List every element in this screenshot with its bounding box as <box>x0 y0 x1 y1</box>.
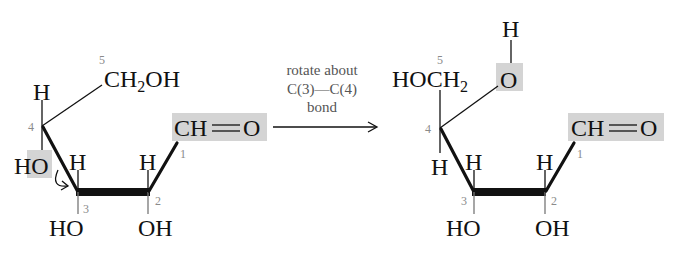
o-atom-label: O <box>500 67 517 93</box>
chemical-diagram: H CH2OH HO H HO H OH CH O 5 4 3 2 1 rota… <box>0 0 674 257</box>
carbon-number-3: 3 <box>461 194 467 208</box>
carbon-number-4: 4 <box>425 122 431 136</box>
c3-ho-label: HO <box>49 215 84 241</box>
carbon-number-4: 4 <box>28 120 34 134</box>
c2-oh-label: OH <box>138 215 173 241</box>
carbon-number-5: 5 <box>437 53 443 67</box>
caption-line-2: C(3)—C(4) <box>287 81 357 98</box>
caption-line-3: bond <box>307 99 338 115</box>
c3-ho-label: HO <box>446 215 481 241</box>
rotation-arrow: rotate about C(3)—C(4) bond <box>273 62 377 132</box>
c1-o-label: O <box>243 115 260 141</box>
c5-group-label: HOCH2 <box>392 66 468 95</box>
c3-h-label: H <box>69 149 86 175</box>
c3-h-label: H <box>465 149 482 175</box>
c4-ho-label: HO <box>14 153 49 179</box>
left-structure: H CH2OH HO H HO H OH CH O 5 4 3 2 1 <box>14 53 267 241</box>
c4-h-label: H <box>431 154 448 180</box>
bond-c4-o <box>440 86 498 128</box>
c4-h-label: H <box>33 79 50 105</box>
c2-h-label: H <box>536 149 553 175</box>
c2-h-label: H <box>139 149 156 175</box>
right-structure: H O HOCH2 H H HO H OH CH O 5 4 3 2 1 <box>392 16 664 241</box>
carbon-number-3: 3 <box>83 202 89 216</box>
o-h-label: H <box>502 16 519 42</box>
c5-group-label: CH2OH <box>104 66 180 95</box>
carbon-number-5: 5 <box>99 53 105 67</box>
caption-line-1: rotate about <box>286 62 358 78</box>
c1-o-label: O <box>640 115 657 141</box>
carbon-number-2: 2 <box>155 194 161 208</box>
c1-ch-label: CH <box>174 115 207 141</box>
carbon-number-1: 1 <box>577 147 583 161</box>
carbon-number-2: 2 <box>551 194 557 208</box>
c1-ch-label: CH <box>571 115 604 141</box>
c2-oh-label: OH <box>535 215 570 241</box>
carbon-number-1: 1 <box>180 147 186 161</box>
bond-c4-c5 <box>42 85 102 126</box>
